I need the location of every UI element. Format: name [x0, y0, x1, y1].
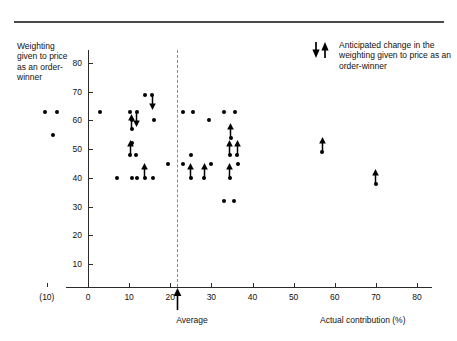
- x-tick-mark: [170, 283, 171, 287]
- data-point: [222, 110, 226, 114]
- y-tick-mark: [89, 120, 93, 121]
- data-point: [189, 153, 193, 157]
- x-tick-mark: [294, 283, 295, 287]
- y-tick-mark: [89, 207, 93, 208]
- data-point: [115, 176, 119, 180]
- data-point: [55, 110, 59, 114]
- y-tick-label: 10: [62, 259, 82, 269]
- arrow-up-icon: [140, 163, 149, 178]
- data-point: [43, 110, 47, 114]
- y-tick-mark: [89, 178, 93, 179]
- data-point: [135, 176, 139, 180]
- x-tick-mark: [88, 283, 89, 287]
- x-tick-label: 10: [114, 292, 144, 302]
- data-point: [232, 199, 236, 203]
- x-tick-label: 30: [196, 292, 226, 302]
- x-tick-label: 80: [402, 292, 432, 302]
- data-point: [233, 110, 237, 114]
- x-tick-mark: [211, 283, 212, 287]
- arrow-up-icon: [225, 163, 234, 178]
- y-tick-label: 60: [62, 115, 82, 125]
- data-point: [143, 93, 147, 97]
- x-tick-mark: [47, 283, 48, 287]
- arrow-up-icon: [127, 114, 136, 129]
- y-tick-label: 20: [62, 230, 82, 240]
- x-tick-mark: [417, 283, 418, 287]
- arrow-up-icon: [226, 123, 235, 138]
- average-label: Average: [162, 315, 222, 325]
- data-point: [222, 199, 226, 203]
- data-point: [51, 133, 55, 137]
- arrow-up-icon: [233, 140, 242, 155]
- data-point: [130, 176, 134, 180]
- arrow-up-icon: [318, 137, 327, 152]
- arrow-up-icon: [126, 140, 135, 155]
- data-point: [134, 153, 138, 157]
- x-tick-mark: [253, 283, 254, 287]
- y-axis-line: [88, 50, 89, 287]
- x-tick-mark: [335, 283, 336, 287]
- data-point: [151, 176, 155, 180]
- x-tick-label: 20: [155, 292, 185, 302]
- y-tick-mark: [89, 235, 93, 236]
- arrow-up-icon: [321, 42, 328, 58]
- y-tick-mark: [89, 149, 93, 150]
- x-tick-label: (10): [32, 292, 62, 302]
- x-tick-label: 60: [320, 292, 350, 302]
- arrow-down-icon: [312, 42, 319, 58]
- y-tick-mark: [89, 264, 93, 265]
- legend-icon-group: [312, 42, 336, 58]
- data-point: [181, 110, 185, 114]
- arrow-up-icon: [200, 163, 209, 178]
- y-tick-label: 80: [62, 58, 82, 68]
- x-axis-title: Actual contribution (%): [320, 315, 452, 325]
- y-tick-mark: [89, 92, 93, 93]
- legend-text: Anticipated change in the weighting give…: [339, 40, 457, 71]
- y-tick-label: 30: [62, 202, 82, 212]
- top-divider-rule: [14, 21, 444, 23]
- data-point: [207, 118, 211, 122]
- average-dashed-line: [177, 50, 178, 287]
- data-point: [98, 110, 102, 114]
- data-point: [236, 162, 240, 166]
- y-tick-label: 70: [62, 87, 82, 97]
- y-tick-label: 50: [62, 144, 82, 154]
- data-point: [181, 162, 185, 166]
- data-point: [152, 118, 156, 122]
- x-tick-label: 0: [73, 292, 103, 302]
- y-tick-mark: [89, 63, 93, 64]
- data-point: [191, 110, 195, 114]
- x-axis-line: [66, 287, 432, 288]
- scatter-chart-figure: Weighting given to price as an order-win…: [0, 0, 457, 341]
- x-tick-mark: [129, 283, 130, 287]
- x-tick-label: 50: [279, 292, 309, 302]
- y-tick-label: 40: [62, 173, 82, 183]
- arrow-down-icon: [148, 95, 157, 110]
- data-point: [209, 162, 213, 166]
- x-tick-mark: [376, 283, 377, 287]
- arrow-up-icon: [186, 163, 195, 178]
- x-tick-label: 40: [238, 292, 268, 302]
- x-tick-label: 70: [361, 292, 391, 302]
- arrow-up-icon: [371, 169, 380, 184]
- data-point: [166, 162, 170, 166]
